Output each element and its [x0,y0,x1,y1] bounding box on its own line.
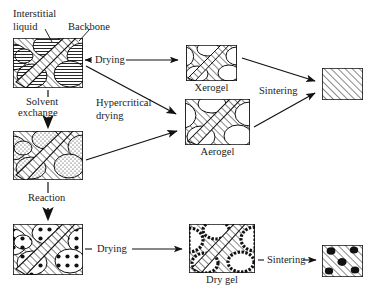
arrow-sintering-xerogel [242,58,315,81]
label-reaction: Reaction [28,192,65,204]
caption-xerogel: Xerogel [186,82,237,93]
structure-wet-gel-art [13,35,86,88]
label-drying-bottom: Drying [97,243,127,255]
label-hypercritical-line2: drying [96,110,123,122]
diagram-canvas: Interstitial liquid Backbone Drying Solv… [0,0,373,295]
structure-solvent-exchanged-art [13,129,84,181]
label-solvent-exchange-line1: Solvent [26,96,58,108]
label-sintering-top: Sintering [259,85,298,97]
label-interstitial-liquid-line1: Interstitial [13,8,56,20]
arrow-solvent-to-aerogel [86,131,177,160]
label-solvent-exchange-line2: exchange [18,107,58,119]
structure-sintered-inclusions-art [322,245,363,277]
label-drying-top: Drying [95,54,125,66]
caption-dry-gel: Dry gel [189,274,255,285]
structure-aerogel-art [185,95,252,148]
label-interstitial-liquid-line2: liquid [13,21,38,33]
arrow-sintering-aerogel [254,93,315,127]
label-backbone: Backbone [68,21,110,33]
caption-aerogel: Aerogel [185,146,250,157]
structure-xerogel-art [186,42,240,82]
label-hypercritical-line1: Hypercritical [96,97,151,109]
structure-sintered-dense-art [322,68,363,100]
structure-reacted-gel-art [13,222,85,275]
structure-dry-gel-art [189,221,255,273]
label-sintering-bottom: Sintering [267,254,306,266]
